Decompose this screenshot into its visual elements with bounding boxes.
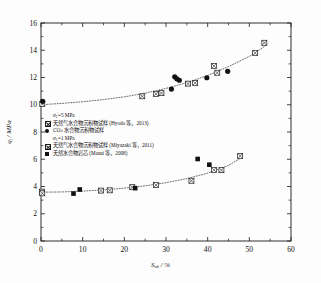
- data-point-series-2: [99, 188, 104, 193]
- filled-circle-icon: [44, 127, 53, 135]
- y-axis-title-unit: / MPa: [5, 120, 13, 139]
- x-tick-label: 60: [287, 245, 295, 254]
- legend-item-masui-cn: 天然水合物岩芯: [53, 150, 88, 156]
- crossed-square-icon: [44, 120, 53, 128]
- legend-header-5mpa-rest: =5 MPa: [58, 112, 75, 118]
- data-point-series-0: [262, 40, 267, 45]
- data-point-series-2: [40, 191, 45, 196]
- legend-item-masui-en: (Masui 等，2008): [88, 150, 127, 156]
- data-point-series-2: [189, 178, 194, 183]
- data-point-series-0: [253, 50, 258, 55]
- x-axis-title-sub: mh: [154, 265, 158, 269]
- legend-item-miyazaki: 天然气水合物沉积物试样 (Miyazaki 等，2011): [44, 142, 224, 150]
- x-tick-label: 50: [246, 245, 254, 254]
- y-axis-title-symbol: q: [5, 140, 13, 144]
- data-point-series-0: [140, 94, 145, 99]
- x-tick-label: 30: [162, 245, 170, 254]
- y-tick-label: 12: [29, 73, 37, 82]
- y-tick-label: 10: [29, 100, 37, 109]
- data-point-series-2: [219, 168, 224, 173]
- y-tick-label: 6: [33, 155, 37, 164]
- crossed-square-icon: [44, 142, 53, 150]
- data-point-series-0: [211, 63, 216, 68]
- legend-header-1mpa-rest: =1 MPa: [58, 135, 75, 141]
- x-tick-label: 40: [204, 245, 212, 254]
- x-tick-label: 0: [39, 245, 43, 254]
- chart-figure: 01020304050600246810121416 σ3'=5 MPa 天然气…: [0, 0, 321, 283]
- legend-item-co2-cn: CO₂ 水合物沉积物试样: [53, 127, 104, 133]
- legend-item-miyazaki-en: (Miyazaki 等，2011): [108, 142, 154, 148]
- data-point-series-0: [154, 91, 159, 96]
- legend-item-co2: CO₂ 水合物沉积物试样: [44, 127, 224, 135]
- data-point-series-1: [40, 99, 45, 104]
- x-tick-label: 10: [79, 245, 87, 254]
- x-axis-title-unit: / %: [159, 261, 170, 269]
- data-point-series-1: [177, 78, 182, 83]
- data-point-series-3: [71, 191, 76, 196]
- y-tick-label: 8: [33, 128, 37, 137]
- legend-item-masui: 天然水合物岩芯 (Masui 等，2008): [44, 150, 224, 158]
- y-tick-label: 2: [33, 209, 37, 218]
- data-point-series-1: [204, 75, 209, 80]
- data-point-series-1: [225, 69, 230, 74]
- legend-item-hyodo-cn: 天然气水合物沉积物试样: [53, 120, 108, 126]
- data-point-series-3: [207, 162, 212, 167]
- data-point-series-0: [193, 80, 198, 85]
- chart-legend: σ3'=5 MPa 天然气水合物沉积物试样 (Hyodo 等，2013) CO₂…: [44, 112, 224, 158]
- legend-header-1mpa-prime: ': [57, 135, 58, 139]
- data-point-series-0: [186, 81, 191, 86]
- data-point-series-3: [77, 187, 82, 192]
- data-point-series-2: [211, 167, 216, 172]
- y-tick-label: 16: [29, 19, 37, 28]
- data-point-series-0: [159, 91, 164, 96]
- filled-square-icon: [44, 150, 53, 158]
- data-point-series-3: [133, 186, 138, 191]
- x-tick-label: 20: [121, 245, 129, 254]
- y-axis-title: qf / MPa: [5, 102, 13, 162]
- data-point-series-2: [238, 153, 243, 158]
- y-tick-label: 14: [29, 46, 37, 55]
- y-tick-label: 0: [33, 237, 37, 246]
- data-point-series-2: [107, 188, 112, 193]
- y-tick-label: 4: [33, 182, 37, 191]
- data-point-series-1: [169, 86, 174, 91]
- legend-header-5mpa-prime: ': [57, 112, 58, 116]
- data-point-series-0: [215, 70, 220, 75]
- legend-group-header-5mpa: σ3'=5 MPa: [44, 112, 224, 120]
- data-point-series-2: [154, 183, 159, 188]
- legend-item-miyazaki-cn: 天然气水合物沉积物试样: [53, 142, 108, 148]
- legend-item-hyodo-en: (Hyodo 等，2013): [108, 120, 149, 126]
- x-axis-title: Smh / %: [0, 261, 321, 269]
